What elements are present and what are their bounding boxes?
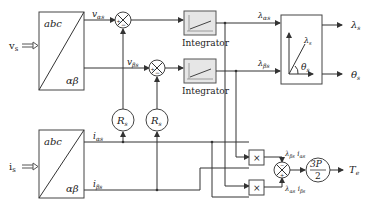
integrator-beta-label: Integrator bbox=[182, 86, 230, 96]
gain-block: 3P 2 bbox=[306, 158, 330, 182]
polar-conversion-block: λs θs bbox=[281, 15, 322, 84]
flux-estimator-diagram: vs is abc αβ abc αβ vαs vβs + − + − bbox=[0, 0, 368, 212]
integrator-alpha-label: Integrator bbox=[182, 38, 230, 48]
svg-text:−: − bbox=[280, 162, 284, 168]
svg-text:×: × bbox=[253, 153, 261, 163]
integrator-beta bbox=[184, 59, 216, 83]
product-bottom-label: λαs iβs bbox=[284, 185, 306, 195]
voltage-input-arrow bbox=[22, 42, 38, 49]
lambda-beta-label: λβs bbox=[257, 59, 270, 70]
svg-text:αβ: αβ bbox=[66, 183, 79, 194]
multiplier-bottom: × bbox=[249, 180, 264, 195]
abc-alphabeta-transform-voltage: abc αβ bbox=[39, 12, 84, 90]
svg-text:3P: 3P bbox=[310, 159, 323, 169]
svg-text:+: + bbox=[280, 172, 284, 178]
lambda-alpha-label: λαs bbox=[257, 11, 270, 21]
product-top-label: λβs iαs bbox=[284, 150, 306, 160]
flux-output-label: λs bbox=[350, 19, 360, 31]
i-alpha-label: iαs bbox=[93, 131, 103, 142]
current-input-label: is bbox=[9, 161, 16, 174]
svg-text:×: × bbox=[253, 183, 261, 193]
i-beta-label: iβs bbox=[93, 179, 102, 191]
summing-junction-beta: + − bbox=[149, 60, 165, 76]
svg-text:2: 2 bbox=[315, 171, 321, 181]
svg-text:−: − bbox=[155, 69, 160, 76]
resistor-alpha: Rs bbox=[112, 109, 134, 131]
summing-junction-alpha: + − bbox=[115, 12, 131, 28]
svg-text:abc: abc bbox=[44, 18, 62, 29]
summing-junction-torque: − + bbox=[274, 162, 290, 178]
multiplier-top: × bbox=[249, 150, 264, 165]
v-alpha-label: vαs bbox=[92, 9, 104, 20]
torque-output-label: Te bbox=[349, 164, 360, 176]
svg-text:−: − bbox=[121, 21, 126, 28]
current-input-arrow bbox=[22, 163, 38, 170]
svg-text:abc: abc bbox=[44, 136, 62, 147]
v-beta-label: vβs bbox=[127, 57, 139, 69]
abc-alphabeta-transform-current: abc αβ bbox=[39, 130, 84, 198]
voltage-input-label: vs bbox=[8, 40, 19, 53]
resistor-beta: Rs bbox=[146, 109, 168, 131]
integrator-alpha bbox=[184, 11, 216, 35]
svg-text:αβ: αβ bbox=[66, 75, 79, 86]
angle-output-label: θs bbox=[351, 69, 360, 81]
